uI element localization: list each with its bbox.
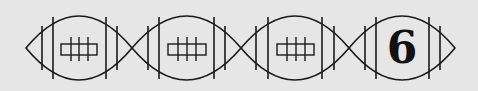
laces-icon (61, 37, 97, 61)
laces-icon (168, 37, 206, 61)
laces-icon (277, 37, 314, 61)
football-1-icon (26, 16, 132, 80)
football-3-icon (241, 16, 349, 80)
football-sequence-figure: 6 (0, 0, 478, 91)
football-4-number: 6 (372, 26, 432, 70)
football-2-icon (132, 16, 241, 80)
